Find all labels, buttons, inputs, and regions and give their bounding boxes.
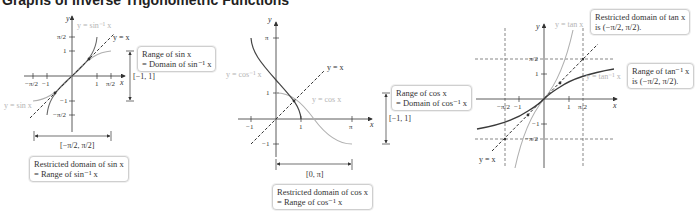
cosine-vertical-bracket-label: [−1, 1] <box>389 114 411 123</box>
tangent-domain-box: Restricted domain of tan x is (−π/2, π/2… <box>590 9 690 35</box>
sine-domain-box-line1: Restricted domain of sin x <box>34 159 124 169</box>
cosine-horizontal-bracket-label: [0, π] <box>306 170 323 179</box>
sine-y-tick-half-pi: π/2 <box>57 33 66 41</box>
cosine-x-tick-pi: π <box>349 123 353 131</box>
cosine-y-axis-label: y <box>268 15 272 24</box>
arcsin-curve-label: y = sin⁻¹ x <box>77 21 111 30</box>
tangent-y-tick-half-pi: π/2 <box>529 55 538 63</box>
sine-x-tick-half-pi: π/2 <box>106 80 115 88</box>
tangent-identity-label: y = x <box>479 155 496 164</box>
sine-domain-box: Restricted domain of sin x = Range of si… <box>29 156 129 182</box>
arctan-curve-label: y = tan⁻¹ x <box>586 72 621 81</box>
sine-horizontal-bracket-label: [−π/2, π/2] <box>60 141 94 150</box>
tangent-x-tick-neg-one: −1 <box>514 103 521 111</box>
cosine-x-tick-neg-one: −1 <box>246 123 253 131</box>
sine-range-box-line2: = Domain of sin⁻¹ x <box>142 59 211 69</box>
cosine-domain-box: Restricted domain of cos x = Range of co… <box>272 184 373 210</box>
sine-x-tick-neg-half-pi: −π/2 <box>25 80 38 88</box>
sine-range-box: Range of sin x = Domain of sin⁻¹ x <box>137 46 216 72</box>
tangent-y-tick-neg-half-pi: −π/2 <box>525 135 538 143</box>
tangent-x-tick-neg-half-pi: −π/2 <box>497 103 510 111</box>
sin-curve-label: y = sin x <box>4 101 32 110</box>
cosine-range-box: Range of cos x = Domain of cos⁻¹ x <box>391 85 472 111</box>
arccos-curve-label: y = cos⁻¹ x <box>226 70 262 79</box>
cosine-x-axis-label: x <box>370 120 374 129</box>
sine-identity-label: y = x <box>113 33 130 42</box>
sine-y-tick-one: 1 <box>63 47 67 55</box>
sine-x-tick-neg-one: −1 <box>42 80 49 88</box>
tan-curve-label: y = tan x <box>555 20 583 29</box>
cosine-y-tick-one: 1 <box>266 89 270 97</box>
sine-vertical-bracket-label: [−1, 1] <box>133 72 155 81</box>
cosine-x-tick-one: 1 <box>299 123 303 131</box>
sine-range-box-line1: Range of sin x <box>142 49 211 59</box>
tangent-y-axis-label: y <box>536 22 540 31</box>
tangent-x-axis-label: x <box>613 101 617 110</box>
tangent-x-tick-one: 1 <box>567 103 571 111</box>
cosine-domain-box-line1: Restricted domain of cos x <box>277 187 368 197</box>
tangent-range-box: Range of tan⁻¹ x is (−π/2, π/2). <box>627 63 694 89</box>
tangent-domain-box-line2: is (−π/2, π/2). <box>595 22 685 32</box>
sine-x-tick-one: 1 <box>95 80 99 88</box>
sine-x-axis-label: x <box>120 78 124 87</box>
sine-y-axis-label: y <box>66 14 70 23</box>
cosine-identity-label: y = x <box>327 63 344 72</box>
tangent-range-box-line1: Range of tan⁻¹ x <box>632 66 689 76</box>
tangent-y-tick-one: 1 <box>535 70 539 78</box>
tangent-x-tick-half-pi: π/2 <box>578 103 587 111</box>
sine-domain-box-line2: = Range of sin⁻¹ x <box>34 169 124 179</box>
cosine-y-tick-pi: π <box>265 34 269 42</box>
cosine-range-box-line2: = Domain of cos⁻¹ x <box>396 98 467 108</box>
tangent-domain-box-line1: Restricted domain of tan x <box>595 12 685 22</box>
cos-curve-label: y = cos x <box>312 95 341 104</box>
cosine-y-tick-neg-one: −1 <box>262 140 269 148</box>
tangent-y-tick-neg-one: −1 <box>532 120 539 128</box>
cosine-range-box-line1: Range of cos x <box>396 88 467 98</box>
sine-y-tick-neg-half-pi: −π/2 <box>53 111 66 119</box>
sine-y-tick-neg-one: −1 <box>60 97 67 105</box>
tangent-range-box-line2: is (−π/2, π/2). <box>632 76 689 86</box>
cosine-domain-box-line2: = Range of cos⁻¹ x <box>277 197 368 207</box>
tangent-graph <box>475 24 617 168</box>
